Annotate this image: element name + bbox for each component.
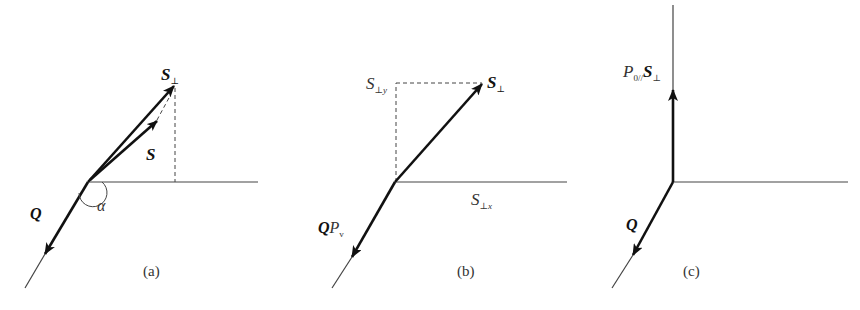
- s-perp-vector-arrow: [395, 84, 482, 182]
- s-perp-x-label: S⊥x: [471, 190, 492, 211]
- alpha-label: α: [97, 197, 106, 214]
- p-s-perp-label: P0//S⊥: [622, 62, 661, 83]
- q-vector-arrow: [633, 182, 673, 255]
- s-perp-label: S⊥: [487, 73, 505, 94]
- q-axis-extension: [332, 257, 352, 288]
- s-label: S: [146, 145, 155, 164]
- q-axis-extension: [25, 254, 45, 288]
- qp-label: QPv: [318, 219, 344, 239]
- panel-b: S⊥ S⊥y S⊥x QPv (b): [318, 73, 567, 288]
- caption-a: (a): [143, 263, 160, 280]
- q-label: Q: [626, 216, 638, 233]
- qp-vector-arrow: [352, 182, 395, 257]
- caption-b: (b): [457, 263, 475, 280]
- s-perp-label: S⊥: [161, 65, 179, 86]
- q-axis-extension: [612, 255, 633, 288]
- panel-c: P0//S⊥ Q (c): [612, 5, 848, 288]
- panel-a: S⊥ S Q α (a): [25, 65, 258, 288]
- s-perp-vector-arrow: [88, 86, 174, 182]
- q-vector-arrow: [45, 182, 88, 254]
- vector-diagram: S⊥ S Q α (a) S⊥ S⊥y S⊥x QPv (b) P0//S⊥ Q…: [0, 0, 860, 310]
- q-label: Q: [30, 205, 42, 222]
- s-perp-y-label: S⊥y: [366, 74, 387, 95]
- caption-c: (c): [683, 263, 700, 280]
